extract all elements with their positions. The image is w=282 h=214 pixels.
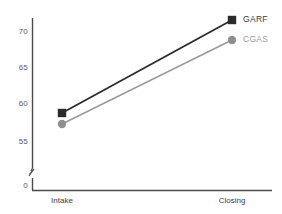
data-point-cgas-closing [228,36,236,44]
y-tick-label-65: 65 [6,63,28,72]
y-tick-label-55: 55 [6,137,28,146]
y-tick-label-70: 70 [6,27,28,36]
series-line-garf [62,20,232,113]
x-axis-label-intake: Intake [37,196,87,205]
data-point-garf-intake [58,109,66,117]
chart-canvas [0,0,282,214]
legend-label-cgas: CGAS [243,35,268,44]
y-tick-label-0: 0 [6,181,28,190]
data-point-cgas-intake [58,120,66,128]
line-chart: 70 65 60 55 0 Intake Closing GARF CGAS [0,0,282,214]
data-point-garf-closing [228,16,236,24]
series-line-cgas [62,40,232,124]
legend-label-garf: GARF [243,15,268,24]
y-tick-label-60: 60 [6,99,28,108]
x-axis-label-closing: Closing [207,196,257,205]
